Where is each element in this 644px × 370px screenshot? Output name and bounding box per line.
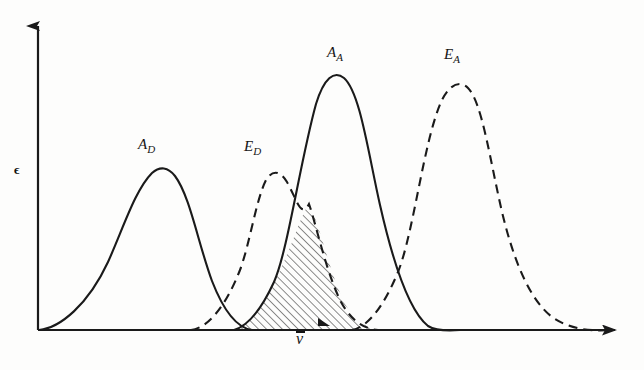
curve-label-base: E [244, 138, 253, 154]
plot-canvas [0, 0, 644, 370]
x-axis-label: ν [296, 331, 305, 348]
curve-label-base: A [327, 44, 336, 60]
curve-label-subscript: A [336, 51, 343, 63]
curve-label-acceptor-emission: EA [444, 46, 460, 65]
curve-label-base: E [444, 46, 453, 62]
curve-label-subscript: D [147, 143, 155, 155]
spectral-overlap-figure: ϵ ν AD ED AA EA [0, 0, 644, 370]
x-axis-label-text: ν [296, 330, 303, 347]
curve-acceptor-emission [352, 84, 612, 330]
overlap-region [234, 204, 378, 330]
curve-label-donor-absorption: AD [138, 136, 155, 155]
curve-label-subscript: A [453, 53, 460, 65]
curve-label-acceptor-absorption: AA [327, 44, 343, 63]
curve-acceptor-absorption [234, 75, 460, 330]
curve-label-base: A [138, 136, 147, 152]
curve-label-donor-emission: ED [244, 138, 261, 157]
curve-donor-absorption [39, 168, 252, 330]
y-axis-label: ϵ [14, 162, 19, 178]
curve-label-subscript: D [253, 145, 261, 157]
